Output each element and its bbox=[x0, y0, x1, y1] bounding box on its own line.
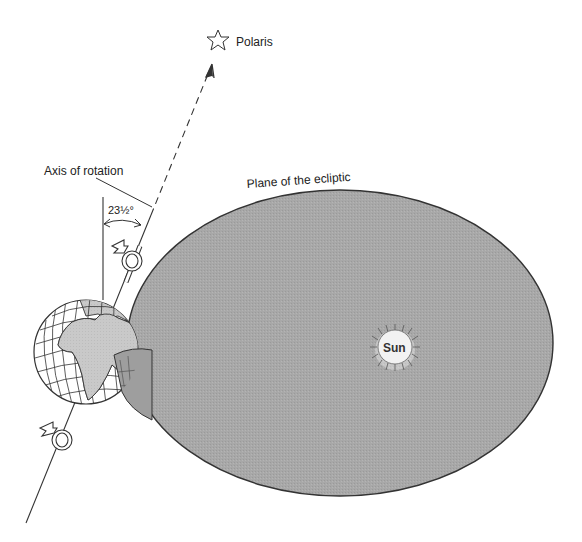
sun-label: Sun bbox=[383, 341, 406, 355]
axis-label-leader bbox=[96, 178, 152, 207]
polaris-label: Polaris bbox=[236, 35, 273, 49]
plane-of-ecliptic-label: Plane of the ecliptic bbox=[246, 170, 351, 191]
axis-line-to-polaris bbox=[151, 74, 208, 215]
plane-of-ecliptic bbox=[127, 190, 553, 496]
axis-of-rotation-label: Axis of rotation bbox=[44, 164, 123, 178]
polaris-star-icon bbox=[207, 30, 229, 50]
tilt-angle-label: 23½° bbox=[108, 204, 134, 216]
rotation-arrow-bottom-icon bbox=[40, 422, 72, 450]
rotation-arrow-top-icon bbox=[112, 240, 142, 271]
earth-tilt-diagram: Polaris Axis of rotation Plane of the ec… bbox=[0, 0, 582, 542]
tilt-angle-arc bbox=[104, 220, 141, 225]
